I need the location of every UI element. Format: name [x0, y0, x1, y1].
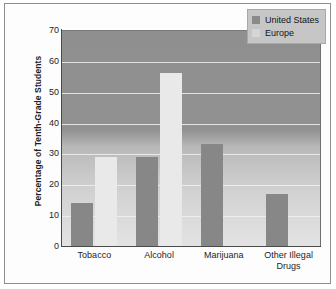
y-axis-tick-50: 50	[35, 87, 59, 97]
y-axis-tick-60: 60	[35, 56, 59, 66]
x-axis-baseline	[61, 246, 321, 247]
legend-swatch-europe	[252, 29, 260, 37]
x-axis-tick-marijuana: Marijuana	[192, 250, 257, 261]
bar-group-other-illegal-drugs	[256, 31, 321, 246]
bar-other-illegal-drugs-united-states	[266, 194, 288, 246]
chart-legend: United States Europe	[247, 9, 326, 44]
bar-group-tobacco	[62, 31, 127, 246]
chart-figure-frame: Percentage of Tenth-Grade Students 01020…	[4, 3, 331, 284]
legend-swatch-united-states	[252, 16, 260, 24]
y-axis-tick-70: 70	[35, 25, 59, 35]
plot-area	[62, 30, 321, 246]
x-axis-tick-line: Tobacco	[62, 250, 127, 261]
x-axis-tick-line: Drugs	[256, 261, 321, 272]
bar-tobacco-united-states	[71, 203, 93, 246]
bar-alcohol-united-states	[136, 157, 158, 246]
bar-group-alcohol	[127, 31, 192, 246]
legend-label-europe: Europe	[265, 28, 294, 38]
bar-tobacco-europe	[95, 157, 117, 246]
bar-alcohol-europe	[160, 73, 182, 246]
y-axis-tick-labels: 010203040506070	[35, 30, 59, 246]
bar-marijuana-united-states	[201, 144, 223, 246]
x-axis-tick-line: Alcohol	[127, 250, 192, 261]
y-axis-tick-40: 40	[35, 118, 59, 128]
y-axis-tick-10: 10	[35, 210, 59, 220]
x-axis-tick-line: Other Illegal	[256, 250, 321, 261]
bar-group-marijuana	[192, 31, 257, 246]
x-axis-tick-labels: TobaccoAlcoholMarijuanaOther IllegalDrug…	[62, 250, 321, 284]
legend-item-united-states: United States	[252, 13, 319, 26]
x-axis-tick-line: Marijuana	[192, 250, 257, 261]
x-axis-tick-other-illegal-drugs: Other IllegalDrugs	[256, 250, 321, 272]
legend-item-europe: Europe	[252, 26, 319, 39]
bars-layer	[62, 31, 320, 246]
y-axis-tick-0: 0	[35, 241, 59, 251]
y-axis-tick-20: 20	[35, 179, 59, 189]
y-axis-tick-30: 30	[35, 148, 59, 158]
legend-label-united-states: United States	[265, 15, 319, 25]
x-axis-tick-tobacco: Tobacco	[62, 250, 127, 261]
x-axis-tick-alcohol: Alcohol	[127, 250, 192, 261]
